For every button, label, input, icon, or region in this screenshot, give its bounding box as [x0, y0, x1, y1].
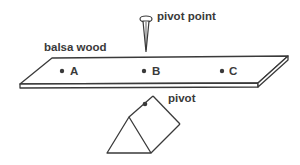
- pivot-point-label: pivot point: [157, 11, 216, 23]
- point-a-label: A: [70, 66, 78, 78]
- point-b-label: B: [152, 66, 160, 78]
- point-b-dot: [142, 69, 146, 73]
- diagram-canvas: [0, 0, 300, 165]
- prism-top-edge: [129, 96, 153, 117]
- balsa-wood-label: balsa wood: [44, 42, 107, 54]
- pivot-dot: [143, 102, 148, 107]
- pin-icon: [140, 16, 152, 52]
- point-a-dot: [60, 69, 64, 73]
- point-c-dot: [220, 69, 224, 73]
- point-c-label: C: [229, 66, 237, 78]
- prism-bottom-edge: [151, 124, 180, 153]
- board-front-edge: [20, 83, 258, 88]
- pivot-label: pivot: [168, 93, 195, 105]
- prism-front-face: [107, 117, 151, 153]
